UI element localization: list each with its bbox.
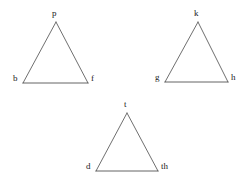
vertex-label-f: f — [91, 74, 94, 83]
upper-left-triangle-left-edge — [23, 22, 56, 83]
upper-left-triangle-right-edge — [56, 22, 88, 83]
lower-center-triangle-right-edge — [127, 113, 158, 171]
vertex-label-k: k — [194, 9, 199, 18]
upper-right-triangle-left-edge — [165, 22, 198, 82]
vertex-label-h: h — [231, 73, 236, 82]
vertex-label-d: d — [86, 162, 91, 171]
diagram-canvas: p b f k g h t d th — [0, 0, 251, 185]
vertex-label-b: b — [13, 74, 18, 83]
triangles-svg — [0, 0, 251, 185]
lower-center-triangle-left-edge — [96, 113, 127, 171]
vertex-label-th: th — [161, 162, 168, 171]
vertex-label-g: g — [155, 73, 160, 82]
vertex-label-t: t — [124, 100, 127, 109]
vertex-label-p: p — [52, 9, 57, 18]
upper-right-triangle-right-edge — [198, 22, 228, 82]
